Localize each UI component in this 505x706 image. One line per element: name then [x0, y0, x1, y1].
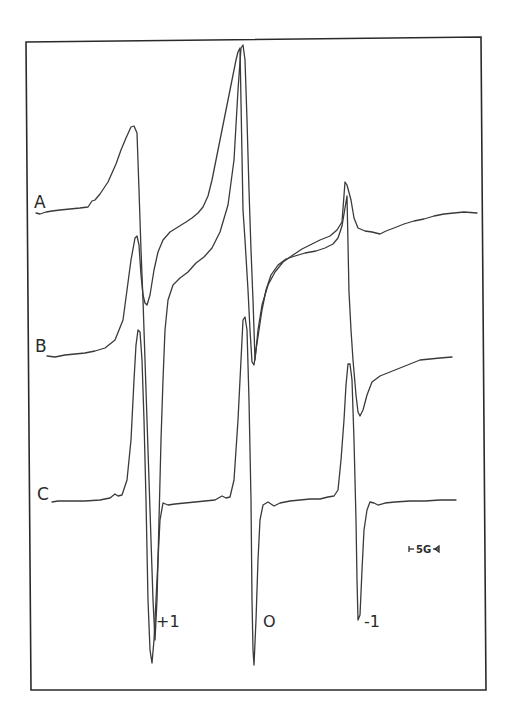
scale-bar-label: 5G — [416, 544, 431, 555]
peak-label-minus1: -1 — [364, 612, 380, 631]
scale-bar: 5G — [409, 544, 439, 555]
figure-frame — [26, 37, 486, 690]
trace-label-c: C — [37, 484, 49, 504]
trace-label-a: A — [34, 192, 46, 212]
epr-spectra-figure: A B C +1 O -1 5G — [0, 0, 505, 706]
trace-label-b: B — [35, 336, 47, 356]
peak-label-zero: O — [263, 612, 276, 631]
trace-b — [47, 48, 452, 416]
traces-group — [36, 45, 477, 665]
peak-label-plus1: +1 — [156, 612, 180, 631]
